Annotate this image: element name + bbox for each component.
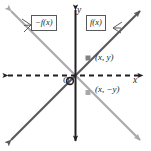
callout-label-f-of-x: f(x) <box>86 15 106 31</box>
point-marker-xy <box>86 56 91 61</box>
origin-label: O <box>63 76 69 85</box>
point-label-x-neg-y: (x, −y) <box>95 85 120 94</box>
coordinate-plane-figure: −f(x) f(x) (x, y) (x, −y) O y x <box>0 0 151 151</box>
figure-canvas <box>0 0 151 151</box>
point-label-xy: (x, y) <box>95 53 113 62</box>
callout-label-neg-f-of-x: −f(x) <box>31 15 57 31</box>
x-axis-label: x <box>133 76 137 86</box>
point-marker-x-neg-y <box>86 90 91 95</box>
y-axis-label: y <box>77 6 81 16</box>
